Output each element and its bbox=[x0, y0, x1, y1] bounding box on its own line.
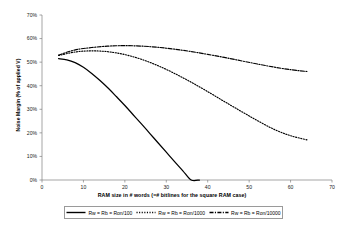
y-tick-label: 70% bbox=[15, 12, 37, 18]
legend-item[interactable]: Rw = Rb = Ron/1000 bbox=[136, 209, 205, 216]
legend-label: Rw = Rb = Ron/1000 bbox=[158, 210, 205, 216]
legend-swatch-dotted bbox=[136, 209, 156, 216]
data-series-group bbox=[59, 46, 308, 181]
legend-item[interactable]: Rw = Rb = Ron/10000 bbox=[209, 209, 280, 216]
x-tick-label: 30 bbox=[156, 184, 176, 190]
x-axis-title: RAM size in # words (=# bitlines for the… bbox=[0, 192, 344, 198]
series-line bbox=[59, 51, 308, 140]
legend-swatch-solid bbox=[66, 209, 86, 216]
chart-container: 0%10%20%30%40%50%60%70% 010203040506070 … bbox=[0, 0, 344, 227]
x-tick-label: 20 bbox=[115, 184, 135, 190]
x-tick-label: 10 bbox=[73, 184, 93, 190]
y-axis-title: Noise Margin (% of applied V) bbox=[15, 30, 21, 160]
x-tick-label: 40 bbox=[198, 184, 218, 190]
x-tick-label: 0 bbox=[32, 184, 52, 190]
x-tick-label: 70 bbox=[322, 184, 342, 190]
legend-label: Rw = Rb = Ron/10000 bbox=[231, 210, 280, 216]
x-tick-marks bbox=[42, 180, 332, 183]
y-tick-label: 0% bbox=[15, 177, 37, 183]
legend-swatch-dashdot bbox=[209, 209, 229, 216]
x-tick-label: 50 bbox=[239, 184, 259, 190]
legend-item[interactable]: Rw = Rb = Ron/100 bbox=[66, 209, 132, 216]
legend-label: Rw = Rb = Ron/100 bbox=[88, 210, 132, 216]
chart-legend: Rw = Rb = Ron/100Rw = Rb = Ron/1000Rw = … bbox=[64, 206, 283, 219]
y-tick-marks bbox=[40, 15, 43, 180]
series-line bbox=[59, 46, 308, 72]
series-line bbox=[59, 59, 200, 181]
x-tick-label: 60 bbox=[281, 184, 301, 190]
